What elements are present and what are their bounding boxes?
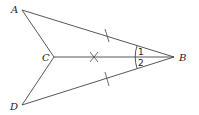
segment-AC: [22, 10, 54, 57]
segment-DB: [22, 57, 174, 105]
angle-label-1: 1: [138, 47, 144, 57]
segment-AB: [22, 10, 174, 57]
geometry-diagram: A B C D 1 2: [0, 0, 199, 115]
segment-CD: [22, 57, 54, 105]
point-label-C: C: [42, 52, 50, 63]
point-label-B: B: [178, 52, 186, 63]
angle-label-2: 2: [138, 58, 144, 68]
point-label-A: A: [10, 4, 18, 15]
point-label-D: D: [9, 101, 18, 112]
